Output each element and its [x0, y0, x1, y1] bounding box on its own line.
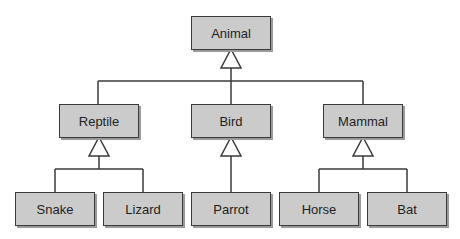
class-label: Horse	[302, 202, 337, 217]
class-bat: Bat	[367, 192, 447, 226]
generalization-arrow-animal	[221, 49, 241, 68]
class-label: Mammal	[338, 114, 388, 129]
class-mammal: Mammal	[323, 104, 403, 138]
class-label: Bat	[397, 202, 417, 217]
class-label: Parrot	[213, 202, 248, 217]
class-lizard: Lizard	[103, 192, 183, 226]
class-label: Lizard	[125, 202, 160, 217]
class-snake: Snake	[15, 192, 95, 226]
generalization-arrow-bird	[221, 137, 241, 156]
class-hierarchy-diagram: Animal Reptile Bird Mammal Snake Lizard …	[0, 0, 460, 239]
class-reptile: Reptile	[59, 104, 139, 138]
class-label: Snake	[37, 202, 74, 217]
class-label: Reptile	[79, 114, 119, 129]
generalization-arrow-reptile	[89, 137, 109, 156]
class-bird: Bird	[191, 104, 271, 138]
class-label: Animal	[211, 26, 251, 41]
class-parrot: Parrot	[191, 192, 271, 226]
class-label: Bird	[219, 114, 242, 129]
generalization-arrow-mammal	[353, 137, 373, 156]
class-animal: Animal	[191, 16, 271, 50]
class-horse: Horse	[279, 192, 359, 226]
